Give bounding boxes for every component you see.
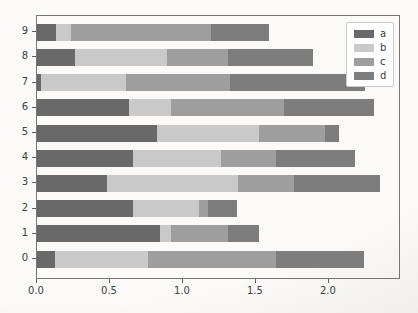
chart-figure: a b c d 0123456789 0.00.51.01.52.0 [0, 0, 418, 313]
bar-segment-a [37, 200, 133, 217]
bar-segment-b [107, 175, 238, 192]
y-tick-mark [32, 132, 36, 133]
bar-row [37, 24, 399, 41]
x-axis-tick-label: 0.5 [92, 285, 126, 297]
bar-segment-b [75, 49, 167, 66]
bar-row [37, 125, 399, 142]
y-tick-mark [32, 157, 36, 158]
bar-segment-d [325, 125, 340, 142]
legend-item-b: b [354, 42, 386, 53]
bar-row [37, 49, 399, 66]
bar-segment-c [259, 125, 325, 142]
bar-row [37, 251, 399, 268]
legend-item-label: d [380, 70, 386, 81]
y-tick-mark [32, 107, 36, 108]
bar-segment-b [129, 99, 171, 116]
bar-row [37, 150, 399, 167]
y-tick-mark [32, 56, 36, 57]
y-tick-mark [32, 233, 36, 234]
y-axis-tick-label: 6 [0, 101, 28, 113]
bar-segment-a [37, 150, 133, 167]
legend-item-label: a [380, 28, 386, 39]
bar-segment-d [276, 150, 355, 167]
y-tick-mark [32, 31, 36, 32]
y-axis-tick-label: 3 [0, 176, 28, 188]
bar-row [37, 200, 399, 217]
bar-segment-b [133, 200, 199, 217]
bar-segment-d [211, 24, 269, 41]
bar-segment-b [160, 225, 172, 242]
bar-segment-b [56, 24, 71, 41]
bar-segment-a [37, 49, 75, 66]
x-tick-mark [182, 279, 183, 283]
x-axis-tick-label: 1.0 [165, 285, 199, 297]
y-axis-tick-label: 8 [0, 50, 28, 62]
bar-segment-c [199, 200, 208, 217]
bar-segment-b [133, 150, 221, 167]
bar-segment-b [41, 74, 126, 91]
bar-row [37, 74, 399, 91]
bar-segment-d [276, 251, 364, 268]
legend-swatch-c [354, 58, 374, 66]
x-tick-mark [36, 279, 37, 283]
bar-segment-c [221, 150, 276, 167]
plot-area: a b c d [36, 15, 400, 279]
bar-segment-a [37, 125, 157, 142]
bar-segment-a [37, 175, 107, 192]
y-tick-mark [32, 208, 36, 209]
bar-segment-c [238, 175, 293, 192]
legend-item-d: d [354, 70, 386, 81]
bar-segment-a [37, 225, 160, 242]
legend-swatch-b [354, 44, 374, 52]
legend-item-c: c [354, 56, 386, 67]
bar-segment-a [37, 99, 129, 116]
y-tick-mark [32, 182, 36, 183]
x-tick-mark [255, 279, 256, 283]
x-axis-tick-label: 1.5 [238, 285, 272, 297]
bar-row [37, 99, 399, 116]
legend-item-label: c [380, 56, 386, 67]
bar-segment-c [171, 225, 228, 242]
legend-swatch-a [354, 30, 374, 38]
bar-row [37, 175, 399, 192]
bar-segment-c [126, 74, 230, 91]
y-axis-tick-label: 0 [0, 252, 28, 264]
bar-segment-c [171, 99, 283, 116]
legend-item-a: a [354, 28, 386, 39]
y-tick-mark [32, 258, 36, 259]
y-tick-mark [32, 82, 36, 83]
bar-segment-a [37, 251, 55, 268]
x-tick-mark [109, 279, 110, 283]
y-axis-tick-label: 7 [0, 76, 28, 88]
bar-segment-d [284, 99, 375, 116]
legend-item-label: b [380, 42, 386, 53]
bar-segment-c [167, 49, 228, 66]
bar-segment-d [294, 175, 380, 192]
bar-segment-d [208, 200, 237, 217]
legend: a b c d [346, 22, 394, 87]
bar-segment-d [228, 225, 259, 242]
y-axis-tick-label: 1 [0, 227, 28, 239]
y-axis-tick-label: 2 [0, 202, 28, 214]
bar-segment-d [228, 49, 313, 66]
bar-segment-b [55, 251, 148, 268]
bar-segment-a [37, 24, 56, 41]
bar-segment-c [148, 251, 276, 268]
x-tick-mark [328, 279, 329, 283]
x-axis-tick-label: 2.0 [311, 285, 345, 297]
legend-swatch-d [354, 72, 374, 80]
bar-segment-c [71, 24, 211, 41]
bar-segment-b [157, 125, 259, 142]
y-axis-tick-label: 4 [0, 151, 28, 163]
bar-row [37, 225, 399, 242]
y-axis-tick-label: 9 [0, 25, 28, 37]
x-axis-tick-label: 0.0 [19, 285, 53, 297]
y-axis-tick-label: 5 [0, 126, 28, 138]
